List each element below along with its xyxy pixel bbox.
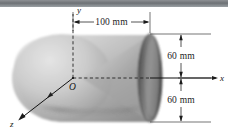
top-header-bar <box>0 0 228 7</box>
y-axis-label: y <box>76 5 81 15</box>
solid-of-revolution-diagram: 100 mm 60 mm 60 mm <box>0 0 228 139</box>
figure-container: 100 mm 60 mm 60 mm <box>0 0 228 139</box>
upper-radius-dimension-label: 60 mm <box>167 51 195 61</box>
lower-radius-dimension-label: 60 mm <box>167 95 195 105</box>
length-dimension-label: 100 mm <box>95 17 128 27</box>
z-axis-label: z <box>9 119 14 129</box>
x-axis-label: x <box>219 73 224 83</box>
origin-marker <box>72 77 74 79</box>
origin-label: O <box>69 82 76 92</box>
